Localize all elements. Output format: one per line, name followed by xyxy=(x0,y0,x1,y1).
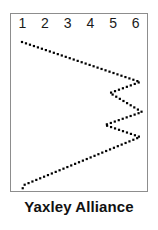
trail-dot xyxy=(130,104,132,106)
trail-dot xyxy=(132,79,134,81)
trail-dot xyxy=(74,163,76,165)
trail-dot xyxy=(118,129,120,131)
trail-dot xyxy=(122,87,124,89)
trail-dot xyxy=(55,171,57,173)
trail-dot xyxy=(112,93,114,95)
trail-dot xyxy=(126,102,128,104)
trail-dot xyxy=(86,158,88,160)
trail-dot xyxy=(134,114,136,116)
trail-dot xyxy=(96,67,98,69)
trail-dot xyxy=(58,169,60,171)
trail-dot xyxy=(130,84,132,86)
trail-dot xyxy=(114,127,116,129)
trail-dot xyxy=(114,90,116,92)
trail-dot xyxy=(120,75,122,77)
trail-dot xyxy=(126,86,128,88)
trail-dot xyxy=(69,57,71,59)
trail-dot xyxy=(65,56,67,58)
trail-dot xyxy=(85,62,87,64)
trail-dot xyxy=(47,174,49,176)
trail-dot xyxy=(93,155,95,157)
trail-dot xyxy=(105,150,107,152)
trail-dot xyxy=(45,49,47,51)
trail-dot xyxy=(81,61,83,63)
trail-dot xyxy=(35,179,37,181)
trail-dot xyxy=(140,111,142,113)
trail-dot xyxy=(138,81,140,83)
trail-dot xyxy=(27,182,29,184)
trail-dot xyxy=(82,160,84,162)
trail-dot-group xyxy=(21,41,143,189)
trail-dot xyxy=(33,45,35,47)
trail-dot xyxy=(130,115,132,117)
trail-dot xyxy=(114,120,116,122)
trail-dot xyxy=(112,72,114,74)
trail-dot xyxy=(121,143,123,145)
trail-dot xyxy=(110,92,112,94)
chart-caption: Yaxley Alliance xyxy=(0,198,158,216)
trail-dot xyxy=(97,153,99,155)
trail-dot xyxy=(31,180,33,182)
trail-dot xyxy=(39,177,41,179)
trail-dot xyxy=(137,108,139,110)
trail-dot xyxy=(93,65,95,67)
trail-dot xyxy=(73,58,75,60)
trail-dot xyxy=(21,41,23,43)
trail-dot xyxy=(126,131,128,133)
trail-dot xyxy=(126,116,128,118)
trail-dot xyxy=(66,166,68,168)
trail-dot xyxy=(53,52,55,54)
trail-dot xyxy=(25,42,27,44)
trail-dot xyxy=(106,125,108,127)
trail-dot xyxy=(117,145,119,147)
trail-dot xyxy=(104,69,106,71)
trail-dot xyxy=(100,68,102,70)
trail-dot xyxy=(137,112,139,114)
trail-dot xyxy=(77,60,79,62)
trail-dot xyxy=(108,71,110,73)
trail-dot xyxy=(118,89,120,91)
trail-dot xyxy=(116,73,118,75)
trail-dot xyxy=(41,48,43,50)
figure-container: 1 2 3 4 5 6 Yaxley Alliance xyxy=(0,0,158,230)
trail-dot xyxy=(43,176,45,178)
trail-dot xyxy=(37,46,39,48)
trail-dot xyxy=(134,83,136,85)
trail-dot xyxy=(130,133,132,135)
trail-dot xyxy=(110,126,112,128)
trail-dot xyxy=(89,64,91,66)
trail-dot xyxy=(51,172,53,174)
trail-dot xyxy=(128,77,130,79)
trail-dot xyxy=(119,98,121,100)
trail-dot xyxy=(70,164,72,166)
trail-dot xyxy=(109,148,111,150)
trail-dot xyxy=(133,106,135,108)
trail-dot xyxy=(118,119,120,121)
trail-dot xyxy=(122,118,124,120)
trail-dot xyxy=(122,100,124,102)
trail-dot xyxy=(101,152,103,154)
trail-dot xyxy=(22,187,24,189)
trail-dot xyxy=(113,147,115,149)
trail-dot xyxy=(128,140,130,142)
trail-dot xyxy=(49,50,51,52)
trail-dot xyxy=(124,76,126,78)
trail-dot xyxy=(24,184,26,186)
trail-dot xyxy=(110,122,112,124)
trail-dot xyxy=(57,53,59,55)
trail-dot xyxy=(122,130,124,132)
trail-dot xyxy=(134,134,136,136)
trail-dot xyxy=(29,44,31,46)
trail-dot xyxy=(61,54,63,56)
trail-dot xyxy=(124,142,126,144)
trail-dot xyxy=(78,161,80,163)
trail-dot xyxy=(115,96,117,98)
trail-dot xyxy=(132,139,134,141)
trail-dot xyxy=(136,137,138,139)
trail-dot xyxy=(90,156,92,158)
dotted-trail xyxy=(0,0,158,230)
trail-dot xyxy=(62,168,64,170)
